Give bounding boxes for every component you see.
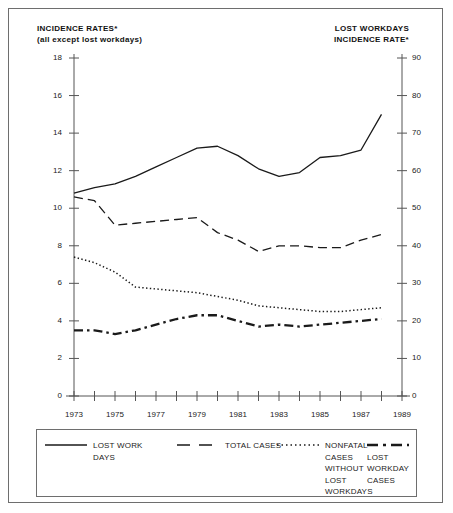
left-axis-title-line1: INCIDENCE RATES* — [37, 23, 142, 34]
legend-line-sample — [177, 440, 219, 450]
y-axis-tick-label: 16 — [36, 91, 62, 100]
y2-axis-tick-label: 20 — [412, 316, 438, 325]
y-axis-tick-label: 12 — [36, 166, 62, 175]
legend-label-line: LOST — [325, 475, 373, 487]
right-axis-title-line1: LOST WORKDAYS — [334, 23, 409, 34]
legend-label: NONFATALCASESWITHOUTLOSTWORKDAYS — [325, 440, 373, 498]
legend-label-line: TOTAL CASES — [225, 440, 281, 452]
x-axis-tick-label: 1981 — [218, 410, 258, 419]
legend-item[interactable]: LOST WORKDAYS — [45, 440, 143, 463]
y2-axis-tick-label: 60 — [412, 166, 438, 175]
legend-label-line: LOST WORK — [93, 440, 143, 452]
y-axis-tick-label: 18 — [36, 53, 62, 62]
x-axis-tick-label: 1989 — [382, 410, 422, 419]
x-axis-tick-label: 1985 — [300, 410, 340, 419]
y-axis-tick-label: 2 — [36, 353, 62, 362]
legend-label-line: WITHOUT — [325, 463, 373, 475]
legend-line-sample — [367, 440, 409, 450]
y2-axis-tick-label: 90 — [412, 53, 438, 62]
y2-axis-tick-label: 0 — [412, 391, 438, 400]
legend-label-line: WORKDAYS — [325, 486, 373, 498]
x-axis-tick-label: 1983 — [259, 410, 299, 419]
x-axis-tick-label: 1975 — [95, 410, 135, 419]
legend-item[interactable]: TOTAL CASES — [177, 440, 281, 452]
x-axis-tick-label: 1987 — [341, 410, 381, 419]
legend-label: TOTAL CASES — [225, 440, 281, 452]
y2-axis-tick-label: 50 — [412, 203, 438, 212]
y2-axis-tick-label: 80 — [412, 91, 438, 100]
legend-label-line: CASES — [325, 452, 373, 464]
x-axis-tick-label: 1977 — [136, 410, 176, 419]
legend-label: LOSTWORKDAYCASES — [367, 452, 409, 487]
left-axis-title-line2: (all except lost workdays) — [37, 34, 142, 45]
legend-label-line: CASES — [367, 475, 409, 487]
legend-label-line: LOST — [367, 452, 409, 464]
y-axis-tick-label: 6 — [36, 278, 62, 287]
y-axis-tick-label: 14 — [36, 128, 62, 137]
chart-legend: LOST WORKDAYSTOTAL CASESNONFATALCASESWIT… — [36, 429, 417, 497]
right-axis-title-line2: INCIDENCE RATE* — [334, 34, 409, 45]
y-axis-tick-label: 10 — [36, 203, 62, 212]
y-axis-tick-label: 8 — [36, 241, 62, 250]
legend-item[interactable]: LOSTWORKDAYCASES — [367, 440, 416, 486]
x-axis-tick-label: 1973 — [54, 410, 94, 419]
left-axis-title: INCIDENCE RATES* (all except lost workda… — [37, 23, 142, 45]
x-axis-tick-label: 1979 — [177, 410, 217, 419]
y2-axis-tick-label: 30 — [412, 278, 438, 287]
legend-label-line: WORKDAY — [367, 463, 409, 475]
legend-label-line: DAYS — [93, 452, 143, 464]
legend-line-sample — [277, 440, 319, 450]
y2-axis-tick-label: 40 — [412, 241, 438, 250]
y2-axis-tick-label: 70 — [412, 128, 438, 137]
legend-item[interactable]: NONFATALCASESWITHOUTLOSTWORKDAYS — [277, 440, 373, 498]
y-axis-tick-label: 0 — [36, 391, 62, 400]
y2-axis-tick-label: 10 — [412, 353, 438, 362]
right-axis-title: LOST WORKDAYS INCIDENCE RATE* — [334, 23, 409, 45]
legend-line-sample — [45, 440, 87, 450]
y-axis-tick-label: 4 — [36, 316, 62, 325]
legend-label: LOST WORKDAYS — [93, 440, 143, 463]
legend-label-line: NONFATAL — [325, 440, 373, 452]
